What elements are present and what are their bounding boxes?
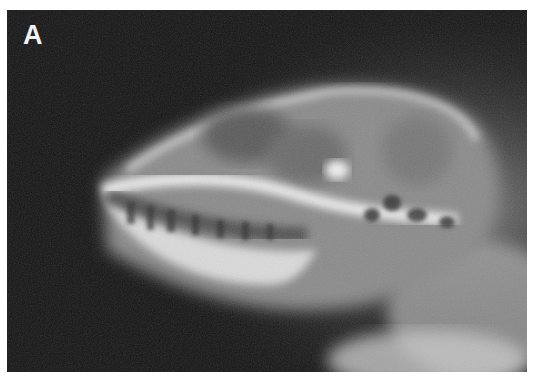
skull-xray-image: [7, 10, 527, 372]
panel-label: A: [23, 22, 43, 49]
xray-figure-panel: A: [7, 10, 527, 372]
